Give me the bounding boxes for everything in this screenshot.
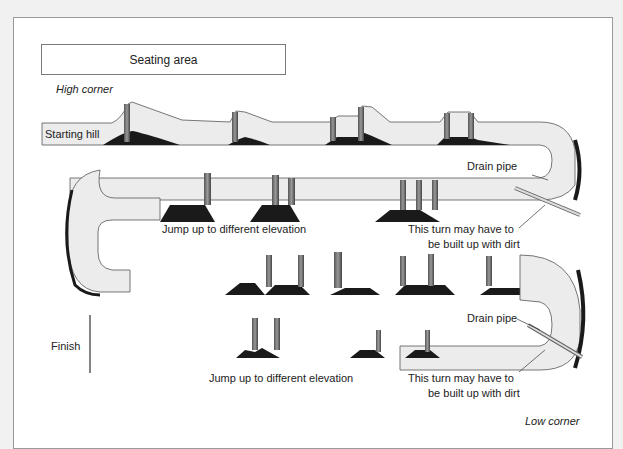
finish-label: Finish bbox=[51, 340, 80, 352]
starting-hill-label: Starting hill bbox=[45, 128, 99, 140]
high-corner-label: High corner bbox=[56, 83, 113, 95]
track-straight-2 bbox=[98, 165, 540, 222]
track-straight-3 bbox=[112, 245, 570, 300]
drain-pipe-label-1: Drain pipe bbox=[467, 160, 517, 172]
low-corner-label: Low corner bbox=[525, 415, 579, 427]
turn-dirt-label-2-line2: be built up with dirt bbox=[428, 387, 520, 399]
turn-dirt-label-1-line2: be built up with dirt bbox=[428, 238, 520, 250]
drain-pipe-label-2: Drain pipe bbox=[467, 312, 517, 324]
turn-dirt-label-1-line1: This turn may have to bbox=[408, 223, 514, 235]
jump-label-1: Jump up to different elevation bbox=[162, 223, 306, 235]
turn-dirt-label-2-line1: This turn may have to bbox=[408, 372, 514, 384]
jump-label-2: Jump up to different elevation bbox=[209, 372, 353, 384]
